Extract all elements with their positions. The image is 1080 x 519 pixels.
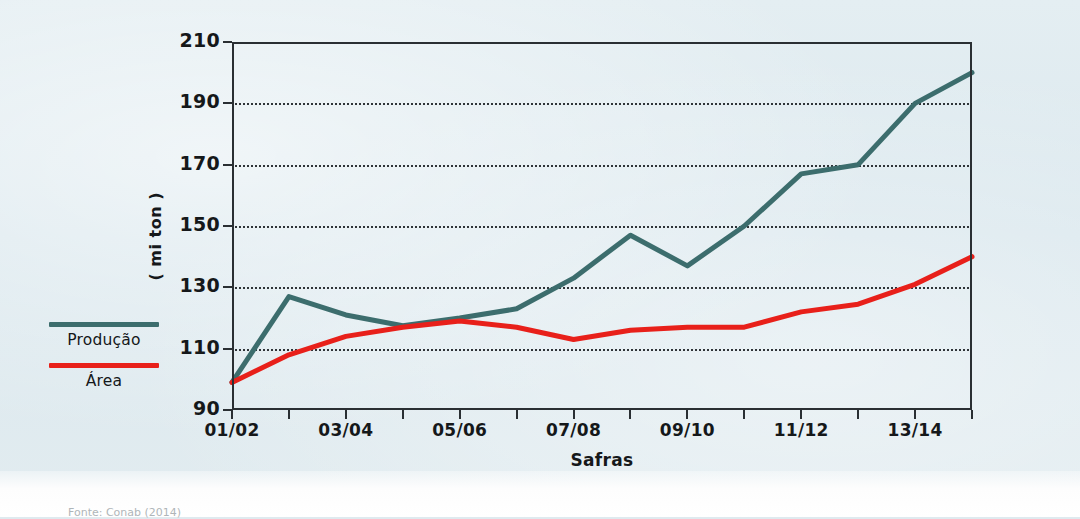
y-tick-110 bbox=[223, 348, 232, 350]
y-tick-190 bbox=[223, 102, 232, 104]
x-tick-10 bbox=[800, 410, 802, 419]
x-tick-6 bbox=[573, 410, 575, 419]
y-tick-label-150: 150 bbox=[179, 213, 220, 235]
x-tick-7 bbox=[629, 410, 631, 419]
source-caption: Fonte: Conab (2014) bbox=[68, 506, 181, 519]
x-tick-label-11-12: 11/12 bbox=[774, 420, 829, 440]
legend-label-area: Área bbox=[18, 373, 190, 390]
y-tick-label-130: 130 bbox=[179, 274, 220, 296]
x-tick-8 bbox=[686, 410, 688, 419]
x-tick-13 bbox=[971, 410, 973, 419]
x-tick-2 bbox=[345, 410, 347, 419]
x-tick-9 bbox=[743, 410, 745, 419]
y-tick-170 bbox=[223, 164, 232, 166]
chart-legend: Produção Área bbox=[18, 322, 190, 404]
series-line-rea bbox=[232, 257, 972, 383]
axis-frame-bottom bbox=[232, 408, 972, 410]
x-tick-0 bbox=[231, 410, 233, 419]
x-tick-label-13-14: 13/14 bbox=[888, 420, 943, 440]
x-tick-1 bbox=[288, 410, 290, 419]
x-tick-label-05-06: 05/06 bbox=[432, 420, 487, 440]
legend-swatch-area bbox=[49, 363, 159, 368]
y-tick-130 bbox=[223, 286, 232, 288]
x-tick-label-01-02: 01/02 bbox=[204, 420, 259, 440]
y-tick-210 bbox=[223, 41, 232, 43]
y-tick-label-190: 190 bbox=[179, 90, 220, 112]
legend-swatch-producao bbox=[49, 322, 159, 327]
x-tick-3 bbox=[402, 410, 404, 419]
x-tick-label-03-04: 03/04 bbox=[318, 420, 373, 440]
axis-frame-left bbox=[232, 42, 234, 410]
y-tick-label-110: 110 bbox=[179, 336, 220, 358]
y-tick-label-210: 210 bbox=[179, 29, 220, 51]
y-tick-label-170: 170 bbox=[179, 152, 220, 174]
axis-frame-top bbox=[232, 42, 972, 44]
y-tick-label-90: 90 bbox=[193, 397, 220, 419]
x-axis-title: Safras bbox=[232, 450, 972, 470]
x-tick-12 bbox=[914, 410, 916, 419]
legend-label-producao: Produção bbox=[18, 332, 190, 349]
plot-area: ( mi ton ) 90110130150170190210 01/0203/… bbox=[232, 42, 972, 410]
x-tick-4 bbox=[459, 410, 461, 419]
axis-frame-right bbox=[970, 42, 972, 410]
x-tick-5 bbox=[516, 410, 518, 419]
series-lines bbox=[232, 42, 972, 410]
y-axis-title: ( mi ton ) bbox=[146, 192, 165, 281]
legend-entry-area: Área bbox=[18, 363, 190, 390]
x-tick-label-07-08: 07/08 bbox=[546, 420, 601, 440]
legend-entry-producao: Produção bbox=[18, 322, 190, 349]
y-tick-150 bbox=[223, 225, 232, 227]
x-tick-label-09-10: 09/10 bbox=[660, 420, 715, 440]
x-tick-11 bbox=[857, 410, 859, 419]
